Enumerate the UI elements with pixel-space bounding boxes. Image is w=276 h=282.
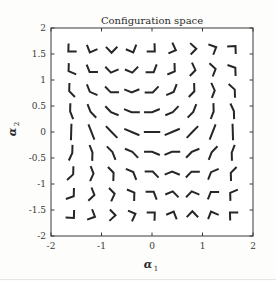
x-tick-label: 2 (250, 241, 256, 251)
x-tick-label: 0 (149, 241, 155, 251)
y-tick-label: -1.5 (29, 205, 47, 215)
x-axis-label-base: α (144, 258, 153, 271)
y-tick-label: 0 (40, 127, 46, 137)
x-tick-label: -1 (97, 241, 106, 251)
x-tick-label: 1 (200, 241, 206, 251)
y-tick-label: 1.5 (32, 49, 47, 59)
y-axis-label-subscript: 2 (13, 122, 21, 126)
y-tick-label: -0.5 (29, 153, 47, 163)
y-tick-label: 2 (40, 23, 46, 33)
x-tick-label: -2 (47, 241, 56, 251)
x-axis-label-subscript: 1 (154, 265, 158, 273)
y-tick-label: 0.5 (32, 101, 47, 111)
y-tick-label: 1 (40, 75, 46, 85)
configuration-space-plot: Configuration space -2-1012 21.510.50-0.… (0, 0, 276, 282)
y-tick-label: -1 (37, 179, 46, 189)
y-axis-label-base: α (6, 127, 19, 136)
figure-container: Configuration space -2-1012 21.510.50-0.… (0, 0, 276, 282)
plot-title: Configuration space (101, 15, 203, 26)
y-tick-label: -2 (37, 231, 46, 241)
page-bottom-rule (0, 279, 276, 280)
